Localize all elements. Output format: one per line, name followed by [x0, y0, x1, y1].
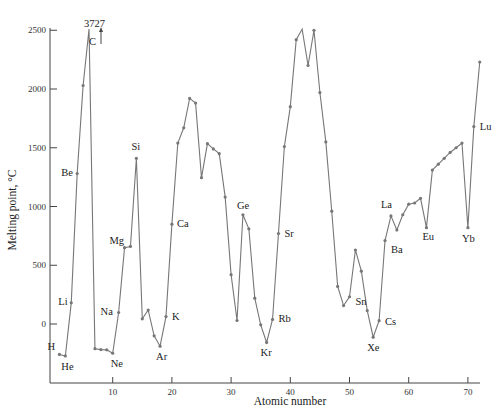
- data-point: [443, 157, 446, 160]
- data-point: [407, 203, 410, 206]
- data-point: [235, 319, 238, 322]
- carbon-value-annotation: 3727: [84, 18, 105, 29]
- element-label-mg: Mg: [110, 235, 125, 246]
- data-point: [182, 126, 185, 129]
- data-point: [395, 228, 398, 231]
- data-point: [241, 213, 244, 216]
- data-point: [324, 140, 327, 143]
- data-point: [129, 245, 132, 248]
- data-point: [164, 315, 167, 318]
- x-tick-label: 30: [227, 387, 237, 397]
- element-label-k: K: [172, 311, 180, 322]
- element-label-si: Si: [131, 141, 140, 152]
- element-label-rb: Rb: [279, 313, 291, 324]
- data-point: [425, 226, 428, 229]
- carbon-symbol-annotation: C: [89, 36, 96, 47]
- data-point: [147, 308, 150, 311]
- data-point: [437, 163, 440, 166]
- data-point: [413, 201, 416, 204]
- data-point: [111, 352, 114, 355]
- y-tick-label: 2000: [28, 84, 47, 94]
- y-tick-label: 1500: [28, 143, 47, 153]
- data-point: [253, 297, 256, 300]
- data-point: [212, 147, 215, 150]
- data-point: [378, 319, 381, 322]
- x-axis-title: Atomic number: [254, 395, 327, 407]
- element-label-kr: Kr: [261, 347, 273, 358]
- data-point: [206, 142, 209, 145]
- data-point: [265, 341, 268, 344]
- data-point: [372, 336, 375, 339]
- melting-point-chart: 1020304050607005001000150020002500 HHeLi…: [0, 0, 503, 419]
- data-point: [336, 285, 339, 288]
- y-tick-label: 1000: [28, 202, 47, 212]
- data-point: [348, 295, 351, 298]
- element-label-ge: Ge: [237, 200, 250, 211]
- y-axis-title: Melting point, °C: [6, 169, 19, 250]
- data-point: [466, 226, 469, 229]
- data-point: [306, 64, 309, 67]
- x-tick-label: 60: [404, 387, 414, 397]
- data-point: [176, 141, 179, 144]
- data-point: [99, 348, 102, 351]
- data-point: [82, 84, 85, 87]
- data-point: [153, 334, 156, 337]
- element-label-na: Na: [101, 306, 114, 317]
- data-point: [330, 210, 333, 213]
- data-point: [318, 91, 321, 94]
- element-label-eu: Eu: [422, 231, 434, 242]
- data-point: [93, 347, 96, 350]
- data-point: [389, 214, 392, 217]
- data-point: [76, 172, 79, 175]
- data-point: [224, 196, 227, 199]
- data-point: [141, 317, 144, 320]
- data-point: [58, 353, 61, 356]
- data-point: [158, 345, 161, 348]
- y-tick-label: 0: [42, 319, 47, 329]
- element-label-ba: Ba: [391, 244, 403, 255]
- data-point: [454, 146, 457, 149]
- x-tick-label: 20: [167, 387, 177, 397]
- element-label-cs: Cs: [385, 316, 396, 327]
- data-point: [354, 248, 357, 251]
- data-point: [271, 318, 274, 321]
- element-label-la: La: [381, 199, 392, 210]
- data-point: [283, 145, 286, 148]
- element-label-ne: Ne: [111, 358, 124, 369]
- element-label-sr: Sr: [284, 228, 294, 239]
- data-point: [383, 239, 386, 242]
- data-point: [478, 60, 481, 63]
- data-point: [360, 270, 363, 273]
- data-point: [472, 125, 475, 128]
- data-series: [58, 29, 482, 358]
- element-label-be: Be: [61, 167, 73, 178]
- element-label-yb: Yb: [462, 233, 475, 244]
- element-label-h: H: [47, 341, 55, 352]
- data-point: [188, 97, 191, 100]
- element-label-li: Li: [58, 296, 67, 307]
- data-point: [170, 223, 173, 226]
- data-point: [105, 348, 108, 351]
- data-point: [431, 168, 434, 171]
- axes: 1020304050607005001000150020002500: [28, 25, 480, 397]
- element-labels: HHeLiBeNeNaMgSiArKCaGeKrRbSrSnXeCsBaLaEu…: [47, 121, 492, 372]
- element-label-sn: Sn: [356, 296, 368, 307]
- data-point: [460, 141, 463, 144]
- data-point: [295, 38, 298, 41]
- data-point: [194, 102, 197, 105]
- y-tick-label: 2500: [28, 25, 47, 35]
- data-point: [277, 232, 280, 235]
- element-label-ca: Ca: [177, 218, 189, 229]
- data-point: [230, 273, 233, 276]
- element-label-xe: Xe: [367, 342, 380, 353]
- data-point: [135, 157, 138, 160]
- y-tick-label: 500: [33, 260, 47, 270]
- data-point: [312, 29, 315, 32]
- data-point: [289, 105, 292, 108]
- data-point: [247, 227, 250, 230]
- x-tick-label: 50: [345, 387, 355, 397]
- data-point: [70, 301, 73, 304]
- x-tick-label: 70: [463, 387, 473, 397]
- data-point: [449, 151, 452, 154]
- data-point: [419, 197, 422, 200]
